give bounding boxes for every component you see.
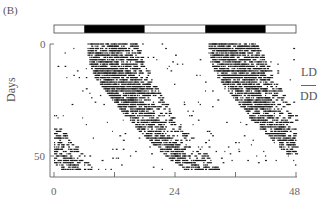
- activity-records: [54, 43, 299, 170]
- actogram-plot: [0, 0, 334, 201]
- light-dark-bar: [54, 25, 296, 33]
